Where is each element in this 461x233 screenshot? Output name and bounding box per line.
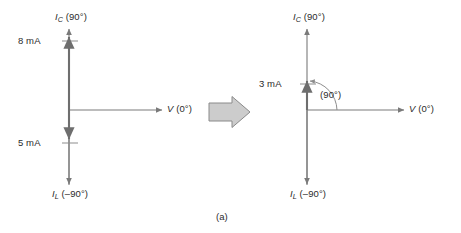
right-label-il: IL (‒90°) [290, 189, 326, 199]
left-label-ic-angle: (90°) [66, 11, 87, 22]
left-label-il-angle: (‒90°) [62, 188, 89, 199]
right-label-ic-angle: (90°) [304, 11, 325, 22]
left-label-il-subscript: L [55, 192, 59, 201]
phasor-figure: IC (90°) 8 mA 5 mA IL (‒90°) V (0°) IC (… [0, 0, 461, 233]
block-arrow-icon [209, 97, 250, 128]
right-angle-arc-label: (90°) [320, 90, 341, 100]
left-axes-group [62, 29, 162, 185]
left-magnitude-5ma: 5 mA [18, 138, 41, 148]
left-magnitude-8ma: 8 mA [18, 36, 41, 46]
right-label-v-angle: (0°) [418, 103, 434, 114]
left-label-ic: IC (90°) [55, 12, 87, 22]
right-axes-group [300, 29, 404, 185]
right-label-v-symbol: V [409, 103, 415, 114]
left-label-il: IL (‒90°) [52, 189, 88, 199]
left-label-v-symbol: V [167, 103, 173, 114]
block-arrow-group [209, 97, 250, 128]
left-label-ic-subscript: C [58, 15, 63, 24]
right-label-il-angle: (‒90°) [300, 188, 327, 199]
left-label-v-angle: (0°) [176, 103, 192, 114]
right-label-ic-subscript: C [296, 15, 301, 24]
right-label-ic: IC (90°) [293, 12, 325, 22]
right-magnitude-3ma: 3 mA [259, 79, 282, 89]
right-label-il-subscript: L [293, 192, 297, 201]
left-label-v: V (0°) [167, 104, 192, 114]
right-label-v: V (0°) [409, 104, 434, 114]
figure-caption: (a) [216, 211, 228, 222]
